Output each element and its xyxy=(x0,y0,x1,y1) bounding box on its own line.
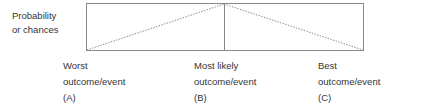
distribution-plot xyxy=(86,3,364,51)
category-label-best-line-3: (C) xyxy=(318,90,380,106)
category-label-most-likely-line-2: outcome/event xyxy=(194,74,256,90)
category-label-most-likely: Most likely outcome/event (B) xyxy=(194,58,256,106)
plot-frame xyxy=(86,3,364,51)
category-label-worst-line-2: outcome/event xyxy=(63,74,125,90)
category-label-worst-line-3: (A) xyxy=(63,90,125,106)
triangular-distribution-figure: Probability or chances Worst outcome/eve… xyxy=(0,0,423,111)
y-axis-caption-line-1: Probability xyxy=(12,9,84,23)
y-axis-caption: Probability or chances xyxy=(12,9,84,36)
y-axis-caption-line-2: or chances xyxy=(12,23,84,37)
category-label-most-likely-line-3: (B) xyxy=(194,90,256,106)
category-label-worst: Worst outcome/event (A) xyxy=(63,58,125,106)
category-label-worst-line-1: Worst xyxy=(63,58,125,74)
category-label-best-line-1: Best xyxy=(318,58,380,74)
category-label-best: Best outcome/event (C) xyxy=(318,58,380,106)
category-label-most-likely-line-1: Most likely xyxy=(194,58,256,74)
category-label-best-line-2: outcome/event xyxy=(318,74,380,90)
